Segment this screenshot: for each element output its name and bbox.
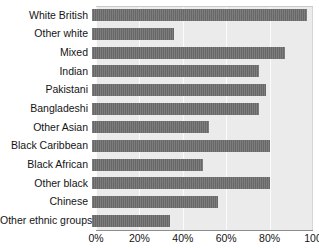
x-axis-line xyxy=(96,230,313,231)
bar-row-other-asian: Other Asian xyxy=(0,118,319,137)
bar-other-ethnic-groups xyxy=(92,215,170,227)
category-label-other-ethnic-groups: Other ethnic groups xyxy=(0,215,92,226)
bar-cell-black-caribbean xyxy=(92,137,319,156)
bar-bangladeshi xyxy=(92,103,259,115)
bar-cell-mixed xyxy=(92,43,319,62)
bar-row-mixed: Mixed xyxy=(0,43,319,62)
bar-cell-bangladeshi xyxy=(92,99,319,118)
category-label-black-african: Black African xyxy=(0,159,92,170)
category-label-other-white: Other white xyxy=(0,28,92,39)
bar-rows: White British Other white Mixed Indian P xyxy=(0,6,319,230)
x-tick-label-60: 60% xyxy=(216,232,237,244)
bar-cell-other-ethnic-groups xyxy=(92,211,319,230)
bar-pakistani xyxy=(92,84,266,96)
bar-black-caribbean xyxy=(92,140,270,152)
bar-black-african xyxy=(92,159,203,171)
category-label-other-black: Other black xyxy=(0,178,92,189)
bar-row-other-ethnic-groups: Other ethnic groups xyxy=(0,211,319,230)
x-tick-label-100: 100 xyxy=(304,232,319,244)
bar-cell-pakistani xyxy=(92,81,319,100)
bar-row-black-african: Black African xyxy=(0,155,319,174)
bar-other-asian xyxy=(92,121,209,133)
bar-cell-white-british xyxy=(92,6,319,25)
x-tick-label-40: 40% xyxy=(172,232,193,244)
bar-row-indian: Indian xyxy=(0,62,319,81)
bar-row-pakistani: Pakistani xyxy=(0,81,319,100)
bar-white-british xyxy=(92,9,307,21)
bar-row-other-white: Other white xyxy=(0,25,319,44)
x-axis: 0% 20% 40% 60% 80% 100 xyxy=(96,230,313,248)
bar-chart: White British Other white Mixed Indian P xyxy=(0,0,319,248)
bar-row-white-british: White British xyxy=(0,6,319,25)
x-tick-label-80: 80% xyxy=(259,232,280,244)
category-label-chinese: Chinese xyxy=(0,196,92,207)
bar-indian xyxy=(92,65,259,77)
x-tick-label-20: 20% xyxy=(129,232,150,244)
bar-cell-other-white xyxy=(92,25,319,44)
category-label-black-caribbean: Black Caribbean xyxy=(0,140,92,151)
x-tick-label-0: 0% xyxy=(88,232,103,244)
category-label-mixed: Mixed xyxy=(0,47,92,58)
bar-cell-black-african xyxy=(92,155,319,174)
bar-cell-other-asian xyxy=(92,118,319,137)
bar-mixed xyxy=(92,47,285,59)
category-label-bangladeshi: Bangladeshi xyxy=(0,103,92,114)
bar-row-bangladeshi: Bangladeshi xyxy=(0,99,319,118)
category-label-other-asian: Other Asian xyxy=(0,122,92,133)
bar-row-chinese: Chinese xyxy=(0,193,319,212)
bar-other-black xyxy=(92,177,270,189)
category-label-pakistani: Pakistani xyxy=(0,84,92,95)
bar-cell-chinese xyxy=(92,193,319,212)
bar-cell-indian xyxy=(92,62,319,81)
bar-row-other-black: Other black xyxy=(0,174,319,193)
category-label-indian: Indian xyxy=(0,66,92,77)
bar-chinese xyxy=(92,196,218,208)
bar-cell-other-black xyxy=(92,174,319,193)
bar-other-white xyxy=(92,28,174,40)
category-label-white-british: White British xyxy=(0,10,92,21)
bar-row-black-caribbean: Black Caribbean xyxy=(0,137,319,156)
